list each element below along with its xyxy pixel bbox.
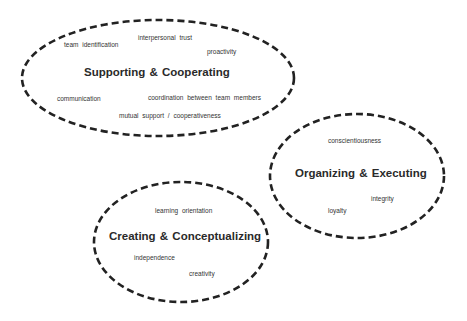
diagram-canvas: Supporting & Cooperating team identifica… [0, 0, 467, 321]
item-proactivity: proactivity [207, 49, 236, 56]
item-loyalty: loyalty [328, 208, 346, 215]
cluster-title-creating: Creating & Conceptualizing [109, 231, 261, 243]
cluster-title-supporting: Supporting & Cooperating [84, 67, 230, 79]
item-interpersonal-trust: interpersonal trust [138, 35, 192, 42]
item-independence: independence [134, 255, 175, 262]
item-creativity: creativity [189, 271, 215, 278]
item-mutual-support: mutual support / cooperativeness [119, 113, 221, 120]
item-conscientiousness: conscientiousness [328, 138, 381, 145]
item-coordination: coordination between team members [148, 95, 261, 102]
item-communication: communication [57, 96, 101, 103]
item-integrity: integrity [371, 196, 394, 203]
item-learning-orientation: learning orientation [155, 208, 212, 215]
item-team-identification: team identification [64, 42, 118, 49]
cluster-title-organizing: Organizing & Executing [295, 168, 427, 180]
